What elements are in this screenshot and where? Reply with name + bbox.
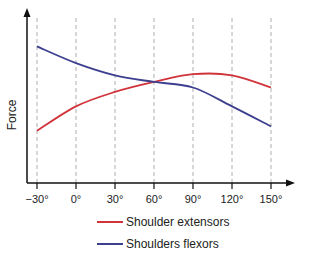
svg-text:30°: 30° <box>107 193 124 205</box>
legend: Shoulder extensors Shoulders flexors <box>97 211 229 255</box>
legend-label: Shoulders flexors <box>126 237 219 251</box>
legend-item-flexors: Shoulders flexors <box>97 233 229 255</box>
x-ticks: −30°0°30°60°90°120°150° <box>25 183 282 205</box>
flexors-line <box>37 46 271 126</box>
svg-text:−30°: −30° <box>25 193 48 205</box>
svg-text:150°: 150° <box>260 193 283 205</box>
svg-text:90°: 90° <box>185 193 202 205</box>
legend-swatch-red <box>97 221 123 223</box>
legend-swatch-blue <box>97 243 123 245</box>
svg-text:0°: 0° <box>71 193 82 205</box>
legend-item-extensors: Shoulder extensors <box>97 211 229 233</box>
y-axis-arrow-icon <box>24 8 31 17</box>
chart-plot: −30°0°30°60°90°120°150° Force <box>0 0 313 210</box>
x-axis-arrow-icon <box>286 180 295 187</box>
svg-text:120°: 120° <box>221 193 244 205</box>
legend-label: Shoulder extensors <box>126 215 229 229</box>
svg-text:60°: 60° <box>146 193 163 205</box>
y-axis-label: Force <box>5 99 19 130</box>
vertical-gridlines <box>37 18 271 183</box>
